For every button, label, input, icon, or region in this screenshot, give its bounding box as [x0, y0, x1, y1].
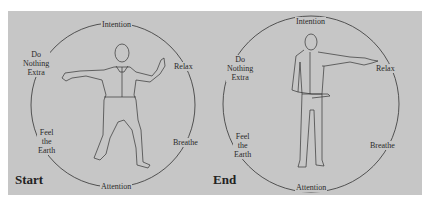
- label-line: Extra: [23, 68, 49, 77]
- label-line: Earth: [234, 150, 251, 159]
- end-figure-icon: [292, 34, 378, 167]
- label-line: Nothing: [227, 64, 253, 73]
- right-circle: [223, 16, 399, 192]
- start-label-feel-the-earth: Feel the Earth: [37, 128, 56, 155]
- end-label-attention: Attention: [295, 183, 327, 192]
- left-circle: [31, 23, 195, 187]
- label-line: Feel: [234, 132, 251, 141]
- label-line: Do: [23, 50, 49, 59]
- start-label-do-nothing-extra: Do Nothing Extra: [22, 50, 50, 77]
- end-label-relax: Relax: [375, 64, 396, 73]
- end-label-do-nothing-extra: Do Nothing Extra: [226, 55, 254, 82]
- label-line: Nothing: [23, 59, 49, 68]
- label-line: Do: [227, 55, 253, 64]
- label-line: the: [234, 141, 251, 150]
- label-line: Earth: [38, 146, 55, 155]
- end-caption: End: [213, 172, 236, 188]
- start-label-relax: Relax: [173, 62, 194, 71]
- start-label-attention: Attention: [100, 182, 132, 191]
- label-line: the: [38, 137, 55, 146]
- label-line: Extra: [227, 73, 253, 82]
- start-figure-icon: [62, 44, 165, 168]
- start-caption: Start: [15, 172, 43, 188]
- start-label-intention: Intention: [101, 20, 132, 29]
- end-label-intention: Intention: [295, 17, 326, 26]
- start-label-breathe: Breathe: [172, 138, 199, 147]
- end-label-feel-the-earth: Feel the Earth: [233, 132, 252, 159]
- label-line: Feel: [38, 128, 55, 137]
- end-label-breathe: Breathe: [369, 141, 396, 150]
